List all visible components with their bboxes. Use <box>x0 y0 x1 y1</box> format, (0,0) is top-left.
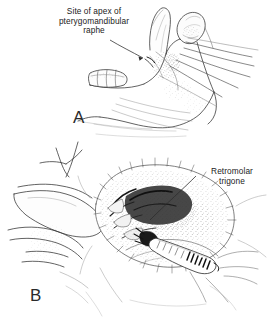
label-raphe-line1: Site of apex of <box>67 6 121 16</box>
retracting-fingers <box>8 142 103 303</box>
label-raphe-line2: pterygomandibular <box>59 16 129 26</box>
panel-letter-b: B <box>30 286 41 306</box>
chin-contour <box>86 286 236 316</box>
label-raphe-line3: raphe <box>83 25 105 35</box>
label-retromolar-line2: trigone <box>219 176 245 186</box>
label-pterygomandibular-raphe: Site of apex of pterygomandibular raphe <box>36 7 152 36</box>
label-retromolar-line1: Retromolar <box>211 166 253 176</box>
anatomical-figure: Site of apex of pterygomandibular raphe … <box>0 0 270 332</box>
panel-letter-a: A <box>73 108 84 128</box>
label-retromolar-trigone: Retromolar trigone <box>196 167 268 186</box>
